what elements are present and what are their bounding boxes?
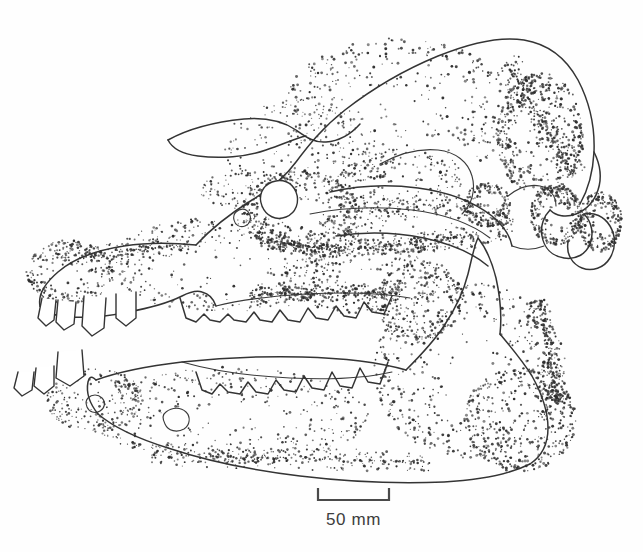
stipple-texture [25, 37, 623, 472]
scale-bar-label: 50 mm [274, 510, 434, 530]
skull-outlines [40, 39, 615, 317]
nasal-lower-outline [168, 136, 306, 157]
mandible-coronoid-outline [478, 238, 501, 334]
scale-bar-rule [318, 488, 389, 500]
upper-canine-tooth-4 [116, 292, 136, 326]
upper-canine-tooth-2 [56, 300, 76, 330]
stipple-region-cranial-vault [285, 37, 515, 182]
basicranium-line [512, 246, 544, 249]
mandible-ventral-outline [98, 414, 530, 483]
stipple-region-paroccipital-process [577, 191, 623, 253]
stipple-region-coronoid-base [375, 260, 464, 339]
upper-canine-tooth-3 [82, 296, 106, 336]
mental-foramen-posterior [163, 408, 189, 431]
lower-incisor-tooth-3 [56, 350, 84, 386]
upper-canine-tooth-1 [38, 298, 56, 326]
infraorbital-foramen [234, 209, 251, 227]
skull-illustration [0, 0, 643, 552]
dentition [14, 292, 392, 396]
orbit-outline [260, 180, 297, 218]
scale-bar [318, 488, 389, 500]
skull-figure: 50 mm [0, 0, 643, 552]
stipple-region-temporal-fossa [337, 151, 462, 217]
foramina [86, 209, 250, 431]
lower-incisor-tooth-1 [14, 372, 34, 396]
stipple-region-occipital-crest [495, 72, 584, 196]
lower-incisor-tooth-2 [34, 366, 54, 394]
